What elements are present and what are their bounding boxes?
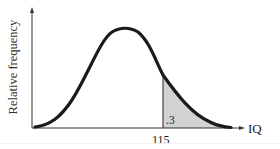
x-tick-115: 115	[152, 133, 170, 148]
y-axis-label-text: Relative frequency	[6, 20, 21, 115]
shaded-area-label: .3	[166, 114, 175, 126]
x-axis-label: IQ	[248, 121, 262, 137]
x-axis-arrow-icon	[239, 126, 245, 130]
y-axis-label: Relative frequency	[3, 12, 23, 122]
bell-curve	[35, 28, 231, 127]
divider	[0, 143, 280, 144]
normal-distribution-chart	[0, 0, 280, 149]
y-axis-arrow-icon	[30, 7, 34, 13]
